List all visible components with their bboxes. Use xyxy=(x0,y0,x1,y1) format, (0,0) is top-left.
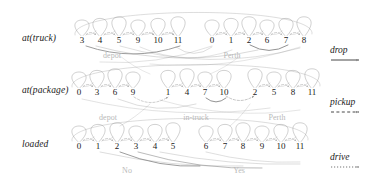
row-label-loaded: loaded xyxy=(22,139,48,149)
legend-label-pickup: pickup xyxy=(330,97,355,107)
node-at-truck-9[interactable]: 9 xyxy=(132,35,144,45)
legend-label-drop: drop xyxy=(330,45,348,55)
node-at-truck-1[interactable]: 1 xyxy=(225,35,237,45)
node-at-truck-3[interactable]: 3 xyxy=(76,35,88,45)
legend-item-drive[interactable]: drive xyxy=(330,152,350,162)
node-at-package-2[interactable]: 2 xyxy=(249,87,261,97)
node-at-package-10[interactable]: 10 xyxy=(218,87,230,97)
group-label-at-truck-1: Perth xyxy=(224,51,241,60)
group-label-at-package-2: Perth xyxy=(269,113,286,122)
node-loaded-9[interactable]: 9 xyxy=(256,141,268,151)
node-loaded-0[interactable]: 0 xyxy=(73,141,85,151)
node-at-truck-7[interactable]: 7 xyxy=(280,35,292,45)
node-at-truck-10[interactable]: 10 xyxy=(152,35,164,45)
node-at-truck-11[interactable]: 11 xyxy=(172,35,184,45)
figure-canvas: at(truck)34591011012678depotPerthat(pack… xyxy=(0,0,372,180)
legend-label-drive: drive xyxy=(330,152,350,162)
node-at-package-8[interactable]: 8 xyxy=(287,87,299,97)
node-at-package-1[interactable]: 1 xyxy=(162,87,174,97)
node-at-package-6[interactable]: 6 xyxy=(109,87,121,97)
group-label-at-package-0: depot xyxy=(99,113,117,122)
node-at-package-5[interactable]: 5 xyxy=(268,87,280,97)
node-loaded-10[interactable]: 10 xyxy=(275,141,287,151)
row-label-at-truck: at(truck) xyxy=(22,33,56,43)
node-loaded-11[interactable]: 11 xyxy=(294,141,306,151)
group-label-at-package-1: in-truck xyxy=(183,113,208,122)
row-label-at-package: at(package) xyxy=(22,85,68,95)
node-at-truck-8[interactable]: 8 xyxy=(298,35,310,45)
node-at-truck-4[interactable]: 4 xyxy=(94,35,106,45)
node-at-truck-5[interactable]: 5 xyxy=(113,35,125,45)
node-at-package-0[interactable]: 0 xyxy=(73,87,85,97)
node-at-truck-2[interactable]: 2 xyxy=(243,35,255,45)
legend-arrow-drop xyxy=(330,56,366,64)
node-at-package-11[interactable]: 11 xyxy=(306,87,318,97)
legend-arrow-drive xyxy=(330,163,366,171)
legend-item-pickup[interactable]: pickup xyxy=(330,97,355,107)
node-at-truck-0[interactable]: 0 xyxy=(206,35,218,45)
node-loaded-7[interactable]: 7 xyxy=(219,141,231,151)
node-loaded-3[interactable]: 3 xyxy=(130,141,142,151)
node-at-truck-6[interactable]: 6 xyxy=(261,35,273,45)
node-at-package-9[interactable]: 9 xyxy=(127,87,139,97)
node-loaded-2[interactable]: 2 xyxy=(111,141,123,151)
node-loaded-8[interactable]: 8 xyxy=(237,141,249,151)
node-loaded-4[interactable]: 4 xyxy=(149,141,161,151)
group-label-at-truck-0: depot xyxy=(103,51,121,60)
legend-arrow-pickup xyxy=(330,108,366,116)
node-loaded-1[interactable]: 1 xyxy=(92,141,104,151)
node-at-package-7[interactable]: 7 xyxy=(199,87,211,97)
node-at-package-3[interactable]: 3 xyxy=(91,87,103,97)
group-label-loaded-0: No xyxy=(122,166,132,175)
legend-item-drop[interactable]: drop xyxy=(330,45,348,55)
node-loaded-6[interactable]: 6 xyxy=(200,141,212,151)
node-at-package-4[interactable]: 4 xyxy=(181,87,193,97)
group-label-loaded-1: Yes xyxy=(233,166,245,175)
node-loaded-5[interactable]: 5 xyxy=(167,141,179,151)
